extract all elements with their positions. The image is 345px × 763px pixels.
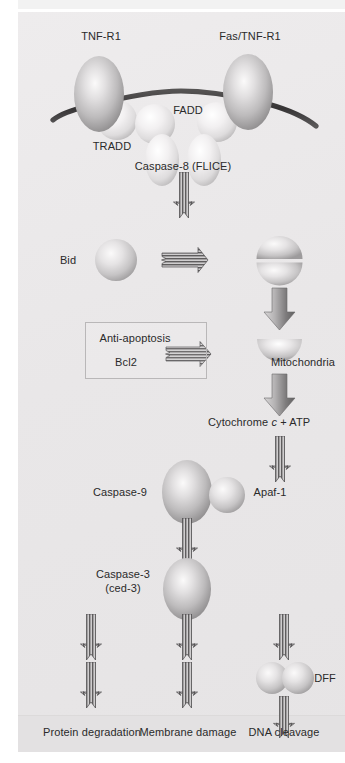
arrow-caspase3-to-dff bbox=[274, 614, 295, 660]
apaf1-sphere bbox=[209, 477, 245, 513]
cytochrome-c-atp-label: Cytochrome c + ATP bbox=[208, 416, 310, 429]
pathway-graphics bbox=[18, 12, 345, 751]
tradd-label: TRADD bbox=[93, 140, 131, 153]
arrow-cytochrome-to-apaf1 bbox=[270, 436, 291, 482]
anti-apoptosis-box bbox=[85, 322, 207, 379]
top-margin-band bbox=[18, 0, 345, 9]
caspase3-oval bbox=[163, 558, 211, 620]
bid-sphere bbox=[95, 239, 137, 281]
arrow-membrane-damage-2 bbox=[177, 662, 198, 708]
fas-tnf-r1-receptor bbox=[223, 54, 273, 130]
arrow-caspase3-to-membrane-damage-1 bbox=[177, 614, 198, 660]
arrow-tbid-to-mitochondria bbox=[264, 288, 295, 330]
bcl2-label: Bcl2 bbox=[115, 356, 137, 369]
fadd-label: FADD bbox=[173, 104, 203, 117]
caspase-8-label: Caspase-8 (FLICE) bbox=[135, 160, 231, 173]
apoptosis-pathway-figure: TNF-R1 Fas/TNF-R1 TRADD FADD Caspase-8 (… bbox=[0, 0, 345, 763]
tnf-r1-label: TNF-R1 bbox=[81, 30, 121, 43]
outcome-protein-degradation: Protein degradation bbox=[43, 726, 141, 739]
tnf-r1-receptor bbox=[74, 56, 124, 132]
caspase-9-label: Caspase-9 bbox=[93, 486, 147, 499]
fas-tnf-r1-label: Fas/TNF-R1 bbox=[219, 30, 281, 43]
diagram-panel: TNF-R1 Fas/TNF-R1 TRADD FADD Caspase-8 (… bbox=[18, 12, 345, 751]
apaf-1-label: Apaf-1 bbox=[253, 486, 286, 499]
caspase-3-label: Caspase-3 bbox=[96, 568, 150, 581]
arrow-protein-degradation-2 bbox=[81, 662, 102, 708]
truncated-bid-split-sphere bbox=[257, 236, 303, 285]
arrow-mitochondria-to-cytochrome bbox=[264, 374, 295, 416]
outcome-dna-cleavage: DNA cleavage bbox=[249, 726, 320, 739]
cytochrome-prefix: Cytochrome bbox=[208, 416, 271, 428]
dff-sphere-pair bbox=[256, 662, 314, 694]
arrow-bid-to-tbid bbox=[162, 248, 209, 273]
mitochondria-label: Mitochondria bbox=[271, 356, 335, 369]
dff-label: DFF bbox=[314, 672, 336, 685]
anti-apoptosis-label: Anti-apoptosis bbox=[99, 332, 170, 345]
caspase9-oval bbox=[162, 460, 212, 524]
outcome-membrane-damage: Membrane damage bbox=[140, 726, 237, 739]
arrow-caspase8-to-bid bbox=[174, 172, 195, 218]
arrow-caspase9-to-caspase3 bbox=[177, 518, 198, 564]
bid-label: Bid bbox=[60, 254, 76, 267]
cytochrome-suffix: + ATP bbox=[277, 416, 310, 428]
arrow-caspase3-to-protein-degradation-1 bbox=[81, 614, 102, 660]
ced-3-label: (ced-3) bbox=[105, 582, 141, 595]
